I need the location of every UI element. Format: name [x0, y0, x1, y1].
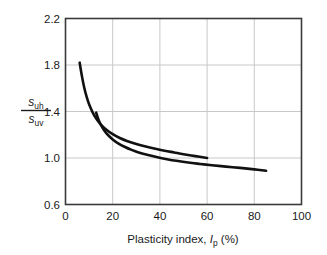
y-tick-label-1.0: 1.0	[44, 152, 60, 164]
y-tick-label-1.8: 1.8	[44, 59, 60, 71]
y-tick-label-0.6: 0.6	[44, 199, 60, 211]
x-tick-label-60: 60	[201, 210, 214, 222]
y-tick-label-1.4: 1.4	[44, 106, 61, 118]
x-tick-label-40: 40	[154, 210, 167, 222]
x-tick-label-100: 100	[292, 210, 311, 222]
chart-figure: 020406080100 0.61.01.41.82.2 Plasticity …	[0, 0, 327, 255]
y-tick-label-2.2: 2.2	[44, 13, 60, 25]
x-tick-label-0: 0	[62, 210, 68, 222]
x-tick-label-80: 80	[248, 210, 261, 222]
plasticity-index-strength-ratio-chart: 020406080100 0.61.01.41.82.2 Plasticity …	[0, 0, 327, 255]
x-tick-label-20: 20	[106, 210, 119, 222]
